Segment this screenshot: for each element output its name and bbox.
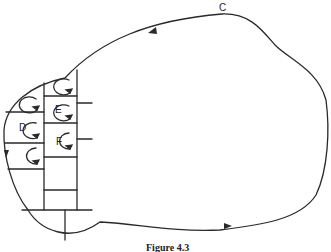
cell-label-d: D bbox=[19, 122, 26, 133]
cell-label-e: E bbox=[55, 104, 62, 115]
circulation-icon bbox=[54, 79, 70, 95]
circulation-arrows bbox=[19, 79, 72, 164]
circulation-icon bbox=[19, 97, 37, 113]
contour-label: C bbox=[219, 2, 226, 13]
arrow-top-icon bbox=[148, 27, 157, 34]
figure-caption: Figure 4.3 bbox=[146, 242, 189, 252]
grid bbox=[5, 70, 92, 240]
figure-canvas: C D E F Figure 4.3 bbox=[0, 0, 331, 252]
cell-label-f: F bbox=[56, 136, 62, 147]
